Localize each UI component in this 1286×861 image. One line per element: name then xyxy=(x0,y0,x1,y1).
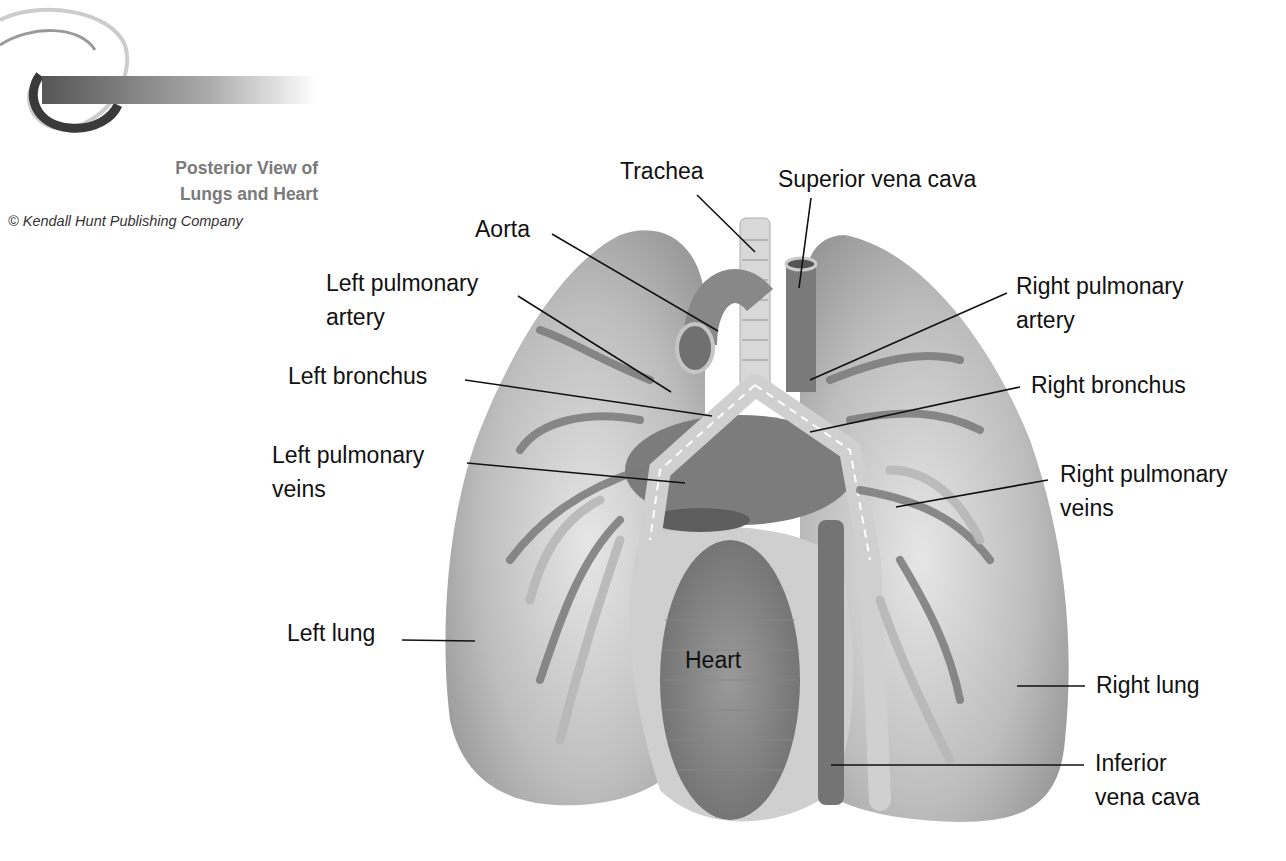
label-right-lung: Right lung xyxy=(1096,672,1200,699)
label-left-lung: Left lung xyxy=(287,620,375,647)
label-left-pulmonary-artery: Left pulmonary artery xyxy=(326,270,478,331)
label-superior-vena-cava: Superior vena cava xyxy=(778,166,976,193)
inferior-vena-cava-shape xyxy=(818,520,844,805)
label-inferior-vena-cava: Inferior vena cava xyxy=(1095,750,1200,811)
label-heart: Heart xyxy=(685,647,741,674)
label-aorta: Aorta xyxy=(475,216,530,243)
label-left-pulmonary-veins: Left pulmonary veins xyxy=(272,442,424,503)
lungs-heart-illustration xyxy=(0,0,1286,861)
label-trachea: Trachea xyxy=(620,158,704,185)
superior-vena-cava-shape xyxy=(786,262,816,392)
label-right-pulmonary-veins: Right pulmonary veins xyxy=(1060,461,1227,522)
label-left-bronchus: Left bronchus xyxy=(288,363,427,390)
leader-left-lung xyxy=(402,640,475,641)
label-right-bronchus: Right bronchus xyxy=(1031,372,1186,399)
label-right-pulmonary-artery: Right pulmonary artery xyxy=(1016,273,1183,334)
